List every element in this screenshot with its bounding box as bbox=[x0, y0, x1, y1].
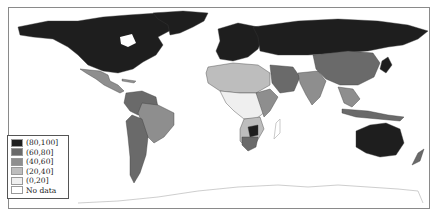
legend-label: (40,60] bbox=[26, 157, 53, 166]
region-antarctica bbox=[78, 185, 423, 203]
region-botswana bbox=[248, 125, 258, 137]
legend-item: No data bbox=[11, 186, 65, 196]
legend-swatch-60-80 bbox=[11, 148, 23, 156]
region-india bbox=[298, 71, 326, 105]
legend-label: (0,20] bbox=[26, 176, 49, 185]
legend-swatch-20-40 bbox=[11, 167, 23, 175]
legend-item: (0,20] bbox=[11, 176, 65, 186]
region-southeast-asia bbox=[338, 87, 360, 107]
region-russia bbox=[253, 19, 428, 55]
map-legend: (80,100] (60,80] (40,60] (20,40] (0,20] … bbox=[7, 135, 69, 199]
region-north-africa bbox=[206, 63, 270, 93]
legend-swatch-80-100 bbox=[11, 139, 23, 147]
region-indonesia bbox=[342, 109, 404, 121]
legend-label: (20,40] bbox=[26, 167, 53, 176]
legend-item: (40,60] bbox=[11, 157, 65, 167]
region-middle-east bbox=[270, 65, 300, 93]
legend-label: (60,80] bbox=[26, 148, 53, 157]
region-australia bbox=[356, 123, 404, 157]
region-north-america bbox=[18, 13, 188, 73]
legend-swatch-0-20 bbox=[11, 177, 23, 185]
world-choropleth-map bbox=[8, 7, 428, 207]
region-south-africa bbox=[242, 137, 258, 151]
legend-swatch-no-data bbox=[11, 186, 23, 194]
region-new-zealand bbox=[412, 149, 424, 165]
legend-label: (80,100] bbox=[26, 138, 58, 147]
region-japan bbox=[380, 57, 392, 73]
legend-item: (60,80] bbox=[11, 148, 65, 158]
legend-item: (80,100] bbox=[11, 138, 65, 148]
legend-item: (20,40] bbox=[11, 167, 65, 177]
legend-label: No data bbox=[26, 186, 56, 195]
legend-swatch-40-60 bbox=[11, 158, 23, 166]
